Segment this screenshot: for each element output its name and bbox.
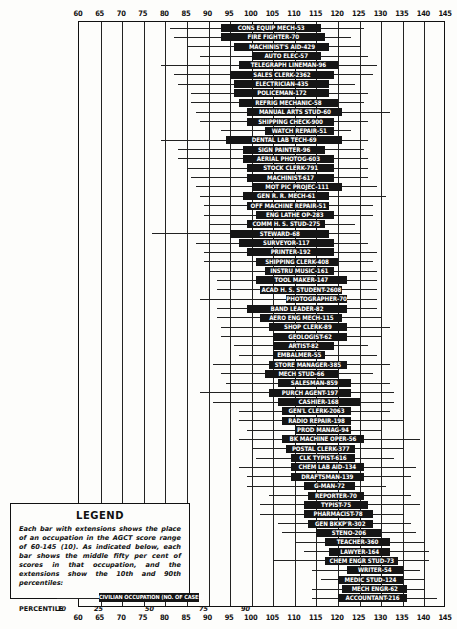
interquartile-bar: GEN BKKP'R-302 [308, 520, 373, 528]
interquartile-bar: SURVEYOR-117 [239, 239, 334, 247]
legend-sample-label: CIVILIAN OCCUPATION (NO. OF CASES) [99, 594, 204, 600]
legend-sample-box: CIVILIAN OCCUPATION (NO. OF CASES) [99, 593, 199, 602]
occupation-label: TEACHER-360 [337, 538, 379, 545]
interquartile-bar: PHOTOGRAPHER-70 [286, 295, 346, 303]
interquartile-bar: POSTAL CLERK-377 [286, 445, 355, 453]
occupation-row: G-MAN-72 [79, 482, 446, 490]
occupation-label: G-MAN-72 [314, 482, 345, 489]
occupation-row: AUTO ELEC-57 [79, 52, 446, 60]
x-tick-label: 60 [74, 9, 83, 18]
occupation-label: TYPIST-75 [321, 501, 351, 508]
percentile-75: 75 [199, 605, 208, 613]
interquartile-bar: MEDIC STUD-124 [338, 576, 403, 584]
occupation-row: STEWARD-68 [79, 230, 446, 238]
occupation-label: INSTRU MUSIC-161 [270, 267, 328, 274]
x-tick-label: 115 [309, 9, 322, 18]
occupation-row: SHOP CLERK-89 [79, 323, 446, 331]
interquartile-bar: FIRE FIGHTER-70 [221, 33, 325, 41]
occupation-row: ENG LATHE OP-283 [79, 211, 446, 219]
occupation-label: AUTO ELEC-57 [265, 52, 308, 59]
legend-description: Each bar with extensions shows the place… [19, 525, 181, 588]
occupation-label: POLICEMAN-172 [257, 89, 306, 96]
occupation-label: LAWYER-164 [340, 548, 379, 555]
occupation-label: CLK TYPIST-616 [299, 454, 346, 461]
occupation-row: SALES CLERK-2362 [79, 71, 446, 79]
interquartile-bar: G-MAN-72 [304, 482, 356, 490]
interquartile-bar: LAWYER-164 [329, 548, 389, 556]
interquartile-bar: STORE MANAGER-385 [269, 361, 347, 369]
interquartile-bar: RADIO REPAIR-198 [282, 417, 351, 425]
occupation-label: ELECTRICIAN-435 [255, 80, 308, 87]
occupation-row: REPORTER-70 [79, 492, 446, 500]
occupation-label: SIGN PAINTER-96 [258, 146, 310, 153]
occupation-label: SALES CLERK-2362 [253, 71, 310, 78]
interquartile-bar: TYPIST-75 [304, 501, 369, 509]
occupation-row: MANUAL ARTS STUD-60 [79, 108, 446, 116]
interquartile-bar: STEWARD-68 [230, 230, 329, 238]
occupation-row: PURCH AGENT-197 [79, 389, 446, 397]
interquartile-bar: COMM H. S. STUD-275 [247, 220, 325, 228]
occupation-row: GEN'L CLERK-2063 [79, 407, 446, 415]
interquartile-bar: OFF MACHINE REPAIR-51 [247, 202, 329, 210]
occupation-label: SURVEYOR-117 [263, 239, 310, 246]
interquartile-bar: CONS EQUIP MECH-53 [221, 24, 320, 32]
interquartile-bar: BK MACHINE OPER-56 [282, 435, 364, 443]
x-tick-label: 80 [160, 9, 169, 18]
interquartile-bar: ARTIST-82 [273, 342, 333, 350]
x-tick-label: 100 [244, 613, 257, 622]
interquartile-bar: AUTO ELEC-57 [252, 52, 321, 60]
interquartile-bar: TOOL MAKER-147 [256, 276, 347, 284]
interquartile-bar: WATCH REPAIR-51 [265, 127, 334, 135]
interquartile-bar: GEOLOGIST-62 [273, 333, 346, 341]
interquartile-bar: WRITER-54 [347, 566, 403, 574]
occupation-label: MECH ENGR-62 [352, 585, 398, 592]
occupation-label: COMM H. S. STUD-275 [252, 220, 320, 227]
interquartile-bar: MECH ENGR-62 [342, 585, 407, 593]
x-tick-label: 120 [330, 9, 343, 18]
x-tick-label: 125 [352, 9, 365, 18]
x-tick-label: 110 [287, 613, 300, 622]
interquartile-bar: GEN R. R. MECH-61 [243, 192, 329, 200]
occupation-label: ENG LATHE OP-283 [266, 211, 324, 218]
occupation-row: OFF MACHINE REPAIR-51 [79, 202, 446, 210]
occupation-row: MACHINIST'S AID-429 [79, 43, 446, 51]
x-tick-label: 95 [225, 613, 234, 622]
x-tick-label: 85 [182, 9, 191, 18]
occupation-label: MACHINIST-617 [267, 174, 314, 181]
occupation-row: ACAD H. S. STUDENT-2608 [79, 286, 446, 294]
interquartile-bar: GEN'L CLERK-2063 [282, 407, 351, 415]
percentile-50: 50 [145, 605, 154, 613]
occupation-row: PHOTOGRAPHER-70 [79, 295, 446, 303]
occupation-label: SHIPPING CHECK-900 [258, 118, 323, 125]
occupation-label: MANUAL ARTS STUD-60 [259, 108, 331, 115]
x-tick-label: 65 [95, 9, 104, 18]
interquartile-bar: CASHIER-168 [278, 398, 360, 406]
x-tick-label: 130 [374, 613, 387, 622]
x-tick-label: 95 [225, 9, 234, 18]
occupation-label: MEDIC STUD-124 [345, 576, 397, 583]
interquartile-bar: PROD MANAG-94 [295, 426, 351, 434]
occupation-row: REFRIG MECHANIC-58 [79, 99, 446, 107]
occupation-row: BAND LEADER-82 [79, 305, 446, 313]
occupation-row: MACHINIST-617 [79, 174, 446, 182]
occupation-label: REFRIG MECHANIC-58 [255, 99, 321, 106]
top-x-axis: 6065707580859095100105110115120125130135… [0, 9, 457, 21]
occupation-row: CLK TYPIST-616 [79, 454, 446, 462]
occupation-row: DRAFTSMAN-139 [79, 473, 446, 481]
occupation-label: MECH STUD-66 [278, 370, 324, 377]
x-tick-label: 140 [417, 613, 430, 622]
x-tick-label: 100 [244, 9, 257, 18]
occupation-label: STOCK CLERK-791 [263, 164, 318, 171]
occupation-label: REPORTER-70 [315, 492, 357, 499]
occupation-row: SHIPPING CHECK-900 [79, 118, 446, 126]
interquartile-bar: PHARMACIST-78 [304, 510, 373, 518]
occupation-label: SALESMAN-859 [291, 379, 338, 386]
occupation-label: GEOLOGIST-62 [288, 333, 332, 340]
occupation-label: GEN R. R. MECH-61 [257, 192, 315, 199]
occupation-label: BAND LEADER-82 [271, 305, 324, 312]
x-tick-label: 145 [438, 9, 451, 18]
x-tick-label: 135 [395, 613, 408, 622]
legend-box: LEGEND Each bar with extensions shows th… [10, 503, 190, 599]
occupation-row: ARTIST-82 [79, 342, 446, 350]
x-tick-label: 75 [138, 9, 147, 18]
